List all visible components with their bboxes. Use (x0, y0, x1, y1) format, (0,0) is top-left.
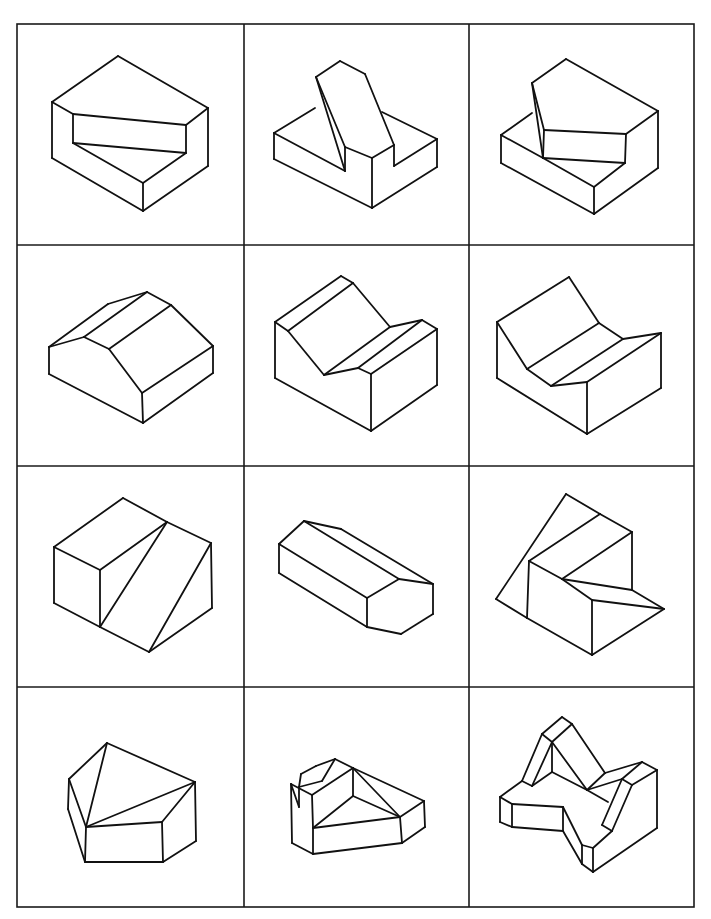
figure-edge (86, 782, 195, 827)
figure-edge (275, 322, 288, 331)
figure-edge (587, 790, 608, 802)
figure-edge (100, 522, 167, 627)
figure-edge (622, 779, 632, 785)
figure-edge (335, 759, 353, 768)
figure-edge (501, 113, 532, 135)
figure-edge (562, 532, 632, 579)
figure-edge (529, 514, 600, 561)
figure-edge (602, 779, 622, 825)
figure-edge (422, 320, 437, 329)
isometric-figure-r3c3: Inclined plate with wedge (496, 494, 664, 655)
figure-edge (275, 378, 371, 431)
isometric-figure-r4c1: Pentagonal faceted solid (68, 743, 196, 862)
figure-edge (497, 378, 587, 434)
isometric-figure-r1c3: Stepped block with angled face (501, 59, 658, 214)
figure-edge (143, 373, 213, 423)
figure-edge (341, 529, 433, 584)
figure-edge (532, 59, 566, 83)
figure-edge (497, 277, 569, 322)
figure-edge (600, 514, 632, 532)
figure-edge (109, 349, 142, 393)
figure-edge (582, 845, 593, 848)
figure-edge (552, 772, 587, 790)
figure-edge (299, 774, 301, 787)
figure-edge (563, 807, 582, 845)
figure-edge (186, 108, 208, 125)
figure-edge (496, 599, 527, 618)
figure-edge (316, 77, 345, 147)
figure-edge (147, 292, 171, 305)
figure-edge (341, 276, 353, 283)
figure-edge (365, 74, 394, 145)
figure-edge (587, 388, 661, 434)
figure-edge (592, 609, 664, 655)
figure-edge (367, 627, 401, 634)
figure-edge (143, 153, 186, 183)
figure-edge (582, 864, 593, 872)
figure-edge (552, 724, 572, 742)
figure-edge (592, 600, 664, 609)
isometric-figure-r1c1: Block with recessed slot (52, 56, 208, 211)
figure-edge (593, 828, 657, 872)
grid-frame (17, 24, 694, 907)
figure-edge (594, 163, 625, 187)
figure-edge (542, 717, 562, 734)
isometric-figure-r3c1: Block with diagonal cut faces (54, 498, 212, 652)
figure-edge (274, 159, 372, 208)
figure-edge (353, 768, 424, 801)
figure-group: Block with recessed slotBase with inclin… (49, 56, 664, 872)
figure-edge (52, 102, 73, 114)
figure-edge (68, 779, 69, 809)
figure-edge (195, 782, 196, 841)
figure-edge (54, 603, 100, 627)
figure-edge (400, 817, 402, 843)
figure-edge (52, 158, 143, 211)
figure-edge (543, 130, 544, 158)
figure-edge (54, 547, 100, 570)
isometric-figure-r2c1: Chamfered roof block (49, 292, 213, 423)
figure-edge (566, 59, 658, 111)
figure-edge (353, 283, 390, 327)
figure-edge (313, 843, 402, 854)
figure-edge (86, 743, 107, 827)
figure-edge (353, 796, 400, 817)
figure-edge (84, 337, 109, 349)
figure-edge (353, 768, 400, 817)
figure-edge (625, 134, 626, 163)
figure-edge (107, 743, 195, 782)
figure-edge (371, 385, 437, 431)
figure-edge (345, 147, 372, 158)
figure-edge (304, 521, 399, 579)
figure-edge (118, 56, 208, 108)
figure-edge (211, 543, 212, 608)
figure-edge (552, 742, 587, 790)
figure-edge (69, 743, 107, 779)
figure-edge (394, 139, 437, 166)
figure-edge (500, 797, 512, 804)
figure-edge (527, 369, 551, 386)
figure-edge (171, 305, 213, 346)
figure-edge (49, 337, 84, 347)
figure-edge (358, 368, 371, 374)
figure-edge (367, 579, 399, 598)
figure-edge (497, 322, 527, 369)
figure-edge (562, 717, 572, 724)
figure-edge (563, 831, 582, 864)
isometric-figure-r3c2: Hexagonal-end prism (279, 521, 433, 634)
figure-edge (52, 56, 118, 102)
drawing-canvas: Block with recessed slotBase with inclin… (0, 0, 711, 919)
figure-edge (372, 167, 437, 208)
figure-edge (527, 561, 529, 618)
exercise-sheet: Block with recessed slotBase with inclin… (0, 0, 711, 919)
figure-edge (279, 521, 304, 544)
figure-edge (100, 627, 149, 652)
isometric-figure-r4c2: Block with triangular pocket (291, 759, 425, 854)
figure-edge (529, 561, 562, 579)
figure-edge (569, 277, 599, 323)
isometric-figure-r4c3: Complex notched solid with ribs (500, 717, 657, 872)
figure-edge (73, 143, 186, 153)
figure-edge (299, 781, 322, 787)
figure-edge (543, 158, 625, 163)
figure-edge (100, 522, 167, 570)
figure-edge (522, 734, 542, 781)
